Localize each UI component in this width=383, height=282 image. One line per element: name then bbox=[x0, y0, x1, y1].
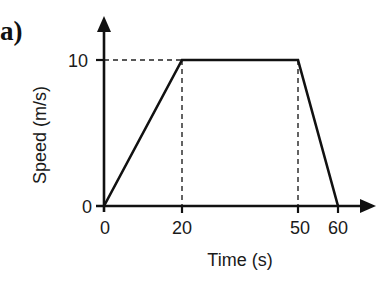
y-tick-0: 0 bbox=[82, 197, 92, 217]
y-axis-label: Speed (m/s) bbox=[30, 86, 50, 184]
panel-label: a) bbox=[0, 16, 23, 46]
y-axis-arrow-icon bbox=[97, 16, 111, 32]
axes bbox=[96, 26, 366, 212]
x-tick-20: 20 bbox=[172, 218, 192, 238]
x-axis-arrow-icon bbox=[360, 199, 376, 213]
x-tick-50: 50 bbox=[290, 218, 310, 238]
speed-line bbox=[104, 60, 338, 206]
reference-lines bbox=[104, 60, 298, 206]
x-tick-60: 60 bbox=[328, 218, 348, 238]
y-tick-10: 10 bbox=[68, 51, 88, 71]
speed-time-graph: a) 10 0 0 20 50 60 Time (s) Speed (m/s) bbox=[0, 0, 383, 282]
x-tick-0: 0 bbox=[100, 218, 110, 238]
x-axis-label: Time (s) bbox=[207, 250, 272, 270]
tick-marks bbox=[96, 60, 338, 213]
